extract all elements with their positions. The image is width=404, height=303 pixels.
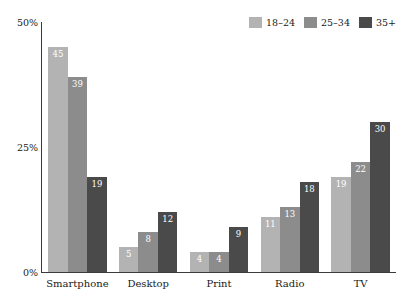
x-axis-line — [41, 272, 396, 273]
bar-value-label: 5 — [119, 249, 139, 259]
bar-value-label: 11 — [261, 219, 281, 229]
bar[interactable]: 4 — [209, 252, 229, 272]
y-axis-tick-labels: 50% 25% 0% — [0, 0, 38, 303]
bar-value-label: 9 — [229, 229, 249, 239]
bar-value-label: 30 — [370, 124, 390, 134]
bar[interactable]: 9 — [229, 227, 249, 272]
bar-value-label: 4 — [209, 254, 229, 264]
chart-title-text — [0, 0, 404, 3]
bar[interactable]: 22 — [351, 162, 371, 272]
bar[interactable]: 13 — [280, 207, 300, 272]
x-axis-category-label: TV — [325, 277, 396, 290]
x-axis-category-label: Smartphone — [42, 277, 113, 290]
chart-title-cropped — [0, 0, 404, 3]
y-tick-50: 50% — [4, 17, 38, 28]
bar-value-label: 18 — [300, 184, 320, 194]
bar-value-label: 19 — [331, 179, 351, 189]
bar-value-label: 19 — [87, 179, 107, 189]
x-axis-category-label: Desktop — [113, 277, 184, 290]
bar-group: 192230 — [331, 22, 390, 272]
y-tick-25: 25% — [4, 142, 38, 153]
x-axis-category-labels: SmartphoneDesktopPrintRadioTV — [42, 277, 396, 293]
x-axis-category-label: Radio — [254, 277, 325, 290]
plot-area: 4539195812449111318192230 — [42, 22, 396, 272]
y-tick-0: 0% — [4, 267, 38, 278]
bar-value-label: 39 — [68, 79, 88, 89]
bar[interactable]: 11 — [261, 217, 281, 272]
bar-value-label: 8 — [138, 234, 158, 244]
bar-group: 111318 — [261, 22, 320, 272]
bar[interactable]: 18 — [300, 182, 320, 272]
bar-group: 5812 — [119, 22, 178, 272]
bar-value-label: 45 — [48, 49, 68, 59]
bar[interactable]: 19 — [87, 177, 107, 272]
bar-group: 449 — [190, 22, 249, 272]
bar[interactable]: 8 — [138, 232, 158, 272]
bar-value-label: 4 — [190, 254, 210, 264]
bar-value-label: 12 — [158, 214, 178, 224]
bar-value-label: 22 — [351, 164, 371, 174]
bar-value-label: 13 — [280, 209, 300, 219]
bar[interactable]: 39 — [68, 77, 88, 272]
bar[interactable]: 19 — [331, 177, 351, 272]
bar[interactable]: 30 — [370, 122, 390, 272]
bar[interactable]: 12 — [158, 212, 178, 272]
bar-chart: 18–24 25–34 35+ 50% 25% 0% 4539195812449… — [0, 0, 404, 303]
bar[interactable]: 5 — [119, 247, 139, 272]
bar-group: 453919 — [48, 22, 107, 272]
bar[interactable]: 45 — [48, 47, 68, 272]
bar[interactable]: 4 — [190, 252, 210, 272]
x-axis-category-label: Print — [184, 277, 255, 290]
